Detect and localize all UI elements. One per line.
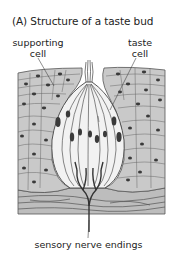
taste-pore-hairs [85, 60, 93, 82]
taste-bud-diagram [0, 0, 173, 259]
